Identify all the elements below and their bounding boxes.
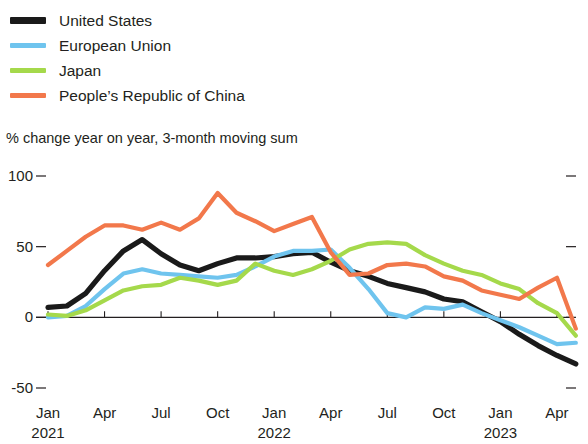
chart-line-european-union bbox=[48, 249, 576, 344]
x-axis-year-label: 2022 bbox=[258, 424, 291, 441]
legend-label-japan: Japan bbox=[59, 63, 101, 79]
chart-legend: United States European Union Japan Peopl… bbox=[10, 8, 430, 108]
chart-series-layer bbox=[48, 193, 576, 364]
x-axis-year-label: 2023 bbox=[484, 424, 517, 441]
legend-label-european-union: European Union bbox=[59, 38, 171, 54]
legend-item-japan: Japan bbox=[10, 58, 430, 83]
x-axis-month-label: Jan bbox=[488, 404, 512, 421]
legend-swatch-china bbox=[10, 93, 46, 98]
legend-item-european-union: European Union bbox=[10, 33, 430, 58]
x-axis-month-label: Apr bbox=[93, 404, 116, 421]
legend-swatch-united-states bbox=[10, 17, 46, 24]
x-axis-month-label: Jul bbox=[378, 404, 397, 421]
legend-swatch-japan bbox=[10, 68, 46, 73]
chart-line-united-states bbox=[48, 240, 576, 364]
x-axis-month-label: Oct bbox=[206, 404, 229, 421]
legend-item-united-states: United States bbox=[10, 8, 430, 33]
y-axis-label: 100 bbox=[0, 167, 33, 184]
chart-plot-area bbox=[0, 160, 588, 400]
chart-line-people-s-republic-of-china bbox=[48, 193, 576, 329]
legend-item-china: People’s Republic of China bbox=[10, 83, 430, 108]
chart-x-axis-labels: Jan2021AprJulOctJan2022AprJulOctJan2023A… bbox=[0, 402, 588, 444]
chart-figure: United States European Union Japan Peopl… bbox=[0, 0, 588, 444]
x-axis-month-label: Jul bbox=[152, 404, 171, 421]
x-axis-month-label: Apr bbox=[319, 404, 342, 421]
legend-swatch-european-union bbox=[10, 43, 46, 48]
y-axis-label: -50 bbox=[0, 379, 33, 396]
x-axis-month-label: Oct bbox=[432, 404, 455, 421]
x-axis-month-label: Jan bbox=[36, 404, 60, 421]
legend-label-united-states: United States bbox=[59, 13, 152, 29]
x-axis-month-label: Apr bbox=[545, 404, 568, 421]
x-axis-year-label: 2021 bbox=[31, 424, 64, 441]
legend-label-china: People’s Republic of China bbox=[59, 88, 245, 104]
chart-axis-subtitle: % change year on year, 3-month moving su… bbox=[6, 130, 298, 146]
x-axis-month-label: Jan bbox=[262, 404, 286, 421]
y-axis-label: 0 bbox=[0, 308, 33, 325]
y-axis-label: 50 bbox=[0, 238, 33, 255]
